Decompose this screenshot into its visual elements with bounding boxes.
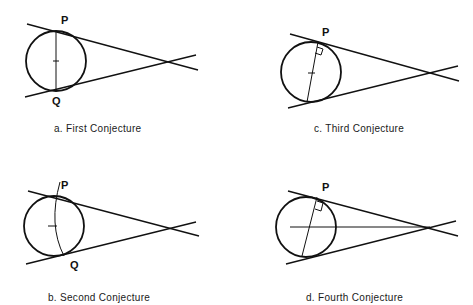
panel-c-figure: P xyxy=(281,26,459,108)
diameter xyxy=(307,42,318,102)
panel-d-figure: P xyxy=(276,181,458,264)
label-p: P xyxy=(61,14,68,26)
label-p: P xyxy=(322,26,329,38)
panel-b-figure: P Q xyxy=(24,179,199,271)
caption-first-conjecture: a. First Conjecture xyxy=(54,123,141,134)
label-p: P xyxy=(322,181,329,193)
circle xyxy=(281,42,341,102)
caption-fourth-conjecture: d. Fourth Conjecture xyxy=(306,292,403,303)
lower-tangent-line xyxy=(26,222,196,264)
panel-a-figure: P Q xyxy=(25,14,198,107)
right-angle-mark xyxy=(315,201,323,211)
arc-pq xyxy=(55,182,64,256)
conjecture-diagrams: P Q P P Q P xyxy=(0,0,473,305)
label-q: Q xyxy=(70,259,79,271)
caption-third-conjecture: c. Third Conjecture xyxy=(314,123,404,134)
caption-second-conjecture: b. Second Conjecture xyxy=(48,292,150,303)
label-p: P xyxy=(61,179,68,191)
label-q: Q xyxy=(52,95,61,107)
upper-tangent-line xyxy=(28,191,199,236)
